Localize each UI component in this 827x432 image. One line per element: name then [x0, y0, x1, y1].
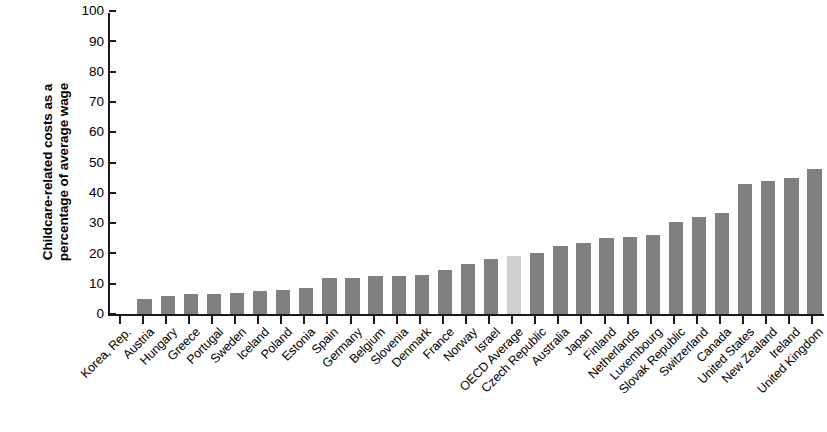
bar [484, 259, 498, 314]
bar [184, 294, 198, 314]
bar [507, 256, 521, 314]
x-axis-tick-mark [350, 316, 352, 324]
y-axis-tick-label: 40 [76, 186, 104, 200]
bar [646, 235, 660, 314]
bar [368, 276, 382, 314]
x-axis-tick-mark [419, 316, 421, 324]
x-axis-tick-mark [303, 316, 305, 324]
bar [784, 178, 798, 314]
bar [392, 276, 406, 314]
bar [807, 169, 821, 314]
x-axis-tick-mark [488, 316, 490, 324]
x-axis-tick-mark [673, 316, 675, 324]
bar [623, 237, 637, 314]
y-axis-tick-label: 30 [76, 216, 104, 230]
bar [253, 291, 267, 314]
bar [738, 184, 752, 314]
y-axis-tick-mark [109, 10, 116, 12]
x-axis-tick-mark [511, 316, 513, 324]
bar [230, 293, 244, 314]
bar [576, 243, 590, 314]
plot-area: 0102030405060708090100 [108, 13, 824, 316]
x-axis-tick-mark [696, 316, 698, 324]
x-axis-tick-mark [211, 316, 213, 324]
x-axis-tick-mark [742, 316, 744, 324]
bar [669, 222, 683, 314]
x-axis-tick-mark [650, 316, 652, 324]
bar [415, 275, 429, 314]
bar [161, 296, 175, 314]
bar [137, 299, 151, 314]
bar [322, 278, 336, 314]
y-axis-title: Childcare-related costs as a percentage … [36, 12, 76, 332]
bar [599, 238, 613, 314]
bar [553, 246, 567, 314]
y-axis-title-line-1: Childcare-related costs as a [40, 84, 56, 261]
x-axis-labels: Korea, Rep.AustriaHungaryGreecePortugalS… [108, 325, 824, 432]
x-axis-tick-mark [442, 316, 444, 324]
y-axis-tick-label: 50 [76, 155, 104, 169]
y-axis-tick-label: 0 [76, 307, 104, 321]
bar [299, 288, 313, 314]
y-axis-tick-label: 90 [76, 34, 104, 48]
x-axis-tick-mark [188, 316, 190, 324]
bar [461, 264, 475, 314]
childcare-costs-bar-chart: Childcare-related costs as a percentage … [0, 0, 827, 432]
x-axis-tick-mark [604, 316, 606, 324]
x-axis-tick-mark [119, 316, 121, 324]
x-axis-tick-mark [788, 316, 790, 324]
bar [530, 253, 544, 314]
x-axis-tick-mark [373, 316, 375, 324]
x-axis-tick-mark [465, 316, 467, 324]
bar [438, 270, 452, 314]
y-axis-tick-label: 20 [76, 246, 104, 260]
bar [692, 217, 706, 314]
bar [345, 278, 359, 314]
x-axis-tick-mark [326, 316, 328, 324]
bars-layer [110, 13, 824, 314]
y-axis-tick-label: 80 [76, 64, 104, 78]
bar [715, 213, 729, 315]
y-axis-title-line-2: percentage of average wage [56, 83, 72, 261]
x-axis-tick-mark [719, 316, 721, 324]
x-axis-tick-mark [280, 316, 282, 324]
x-axis-tick-mark [234, 316, 236, 324]
x-axis-tick-mark [165, 316, 167, 324]
y-axis-tick-label: 70 [76, 95, 104, 109]
y-axis-tick-label: 60 [76, 125, 104, 139]
y-axis-tick-label: 100 [76, 4, 104, 18]
x-axis-tick-mark [557, 316, 559, 324]
x-axis-tick-mark [534, 316, 536, 324]
bar [276, 290, 290, 314]
x-axis-tick-mark [811, 316, 813, 324]
x-axis-tick-mark [142, 316, 144, 324]
x-axis-tick-mark [580, 316, 582, 324]
x-axis-tick-mark [396, 316, 398, 324]
y-axis-tick-label: 10 [76, 276, 104, 290]
x-axis-tick-mark [627, 316, 629, 324]
bar [761, 181, 775, 314]
x-axis-tick-mark [257, 316, 259, 324]
bar [207, 294, 221, 314]
x-axis-tick-mark [765, 316, 767, 324]
